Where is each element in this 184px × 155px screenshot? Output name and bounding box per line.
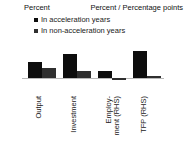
left-axis-title: Percent: [24, 3, 50, 12]
category-label-investment: Investment: [70, 96, 78, 154]
category-label-employment: Employ- ment (RHS): [105, 96, 121, 154]
category-label-output: Output: [35, 96, 43, 154]
bar-chart: Percent Percent / Percentage points 20 1…: [0, 0, 184, 155]
legend-swatch-icon: [34, 29, 38, 33]
legend: In acceleration years In non-acceleratio…: [34, 15, 125, 35]
category-label-investment-text: Investment: [69, 96, 78, 133]
category-label-tfp-text: TFP (RHS): [139, 96, 148, 133]
category-label-tfp: TFP (RHS): [140, 96, 148, 154]
category-axis: Output Investment Employ- ment (RHS) TFP…: [22, 96, 164, 155]
bar-investment-acceleration: [63, 54, 77, 78]
bar-investment-non-acceleration: [77, 71, 91, 78]
legend-label-acceleration: In acceleration years: [41, 15, 110, 24]
zero-baseline: [22, 78, 164, 79]
legend-item-non-acceleration: In non-acceleration years: [34, 26, 125, 35]
bar-tfp-non-acceleration: [147, 76, 161, 78]
bar-employment-acceleration: [98, 71, 112, 78]
legend-label-non-acceleration: In non-acceleration years: [41, 26, 125, 35]
category-label-employment-line2: ment (RHS): [112, 96, 121, 136]
right-axis-title: Percent / Percentage points: [90, 3, 183, 12]
bar-output-acceleration: [28, 62, 42, 78]
bar-output-non-acceleration: [42, 68, 56, 78]
bar-tfp-acceleration: [133, 51, 147, 78]
category-label-output-text: Output: [34, 96, 43, 119]
bar-employment-non-acceleration: [112, 78, 126, 80]
legend-swatch-icon: [34, 18, 38, 22]
legend-item-acceleration: In acceleration years: [34, 15, 125, 24]
